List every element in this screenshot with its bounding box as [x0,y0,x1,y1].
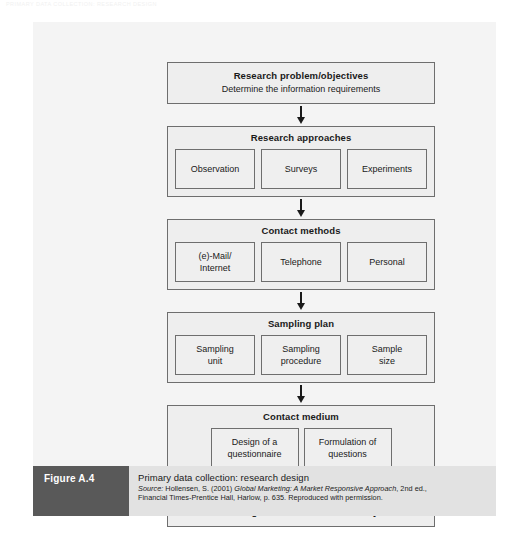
flow-arrow-1 [167,104,435,126]
flow-arrow-4 [167,383,435,405]
source-title-italic: Global Marketing: A Market Responsive Ap… [234,484,396,493]
flow-arrow-3 [167,290,435,312]
flow-arrow-2 [167,197,435,219]
arrow-head-icon [297,303,305,310]
source-text-post: , 2nd ed., [396,484,427,493]
stage-title: Sampling plan [175,318,427,330]
figure-caption-body: Primary data collection: research design… [129,466,496,516]
cell-sample-size: Sample size [347,335,427,375]
source-label: Source: [138,484,163,493]
arrow-head-icon [297,117,305,124]
stage-cells-row: Sampling unit Sampling procedure Sample … [175,335,427,375]
stage-research-approaches: Research approaches Observation Surveys … [167,126,435,197]
stage-contact-methods: Contact methods (e)-Mail/ Internet Telep… [167,219,435,290]
cell-personal: Personal [347,242,427,282]
cell-telephone: Telephone [261,242,341,282]
figure-number-label: Figure A.4 [33,466,129,516]
arrow-head-icon [297,396,305,403]
figure-caption-band: Figure A.4 Primary data collection: rese… [33,466,496,516]
cell-experiments: Experiments [347,149,427,189]
stage-research-problem: Research problem/objectives Determine th… [167,62,435,104]
stage-subtitle: Determine the information requirements [175,83,427,95]
stage-title: Contact medium [175,411,427,423]
cell-design-questionnaire: Design of a questionnaire [211,428,299,468]
cell-sampling-unit: Sampling unit [175,335,255,375]
stage-title: Research approaches [175,132,427,144]
figure-caption-title: Primary data collection: research design [138,472,488,484]
stage-cells-row: (e)-Mail/ Internet Telephone Personal [175,242,427,282]
cell-email-internet: (e)-Mail/ Internet [175,242,255,282]
cell-observation: Observation [175,149,255,189]
stage-sampling-plan: Sampling plan Sampling unit Sampling pro… [167,312,435,383]
cell-surveys: Surveys [261,149,341,189]
figure-source-line-1: Source: Hollensen, S. (2001) Global Mark… [138,484,488,493]
cell-formulation-questions: Formulation of questions [304,428,392,468]
source-text-pre: Hollensen, S. (2001) [163,484,234,493]
stage-title: Research problem/objectives [175,70,427,82]
stage-title: Contact methods [175,225,427,237]
stage-cells-row: Design of a questionnaire Formulation of… [175,428,427,468]
stage-cells-row: Observation Surveys Experiments [175,149,427,189]
page-running-head: PRIMARY DATA COLLECTION: RESEARCH DESIGN [6,1,157,7]
cell-sampling-procedure: Sampling procedure [261,335,341,375]
arrow-head-icon [297,210,305,217]
research-design-flowchart: Research problem/objectives Determine th… [167,62,435,527]
figure-source-line-2: Financial Times-Prentice Hall, Harlow, p… [138,493,488,502]
figure-panel: Research problem/objectives Determine th… [33,22,496,466]
